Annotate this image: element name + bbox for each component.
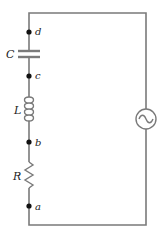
node-d-label: d [35,26,41,37]
wire-top [29,13,146,109]
resistor-label: R [12,170,21,183]
capacitor-label: C [6,48,15,61]
node-b-label: b [35,137,41,148]
wire-right-bottom [29,129,146,225]
inductor: L [13,97,34,162]
inductor-label: L [13,104,21,117]
node-c-label: c [35,70,41,81]
node-a-label: a [35,201,41,212]
ac-source-icon [136,109,156,129]
circuit-diagram: C L R d c b a [0,0,167,230]
resistor: R [12,162,33,188]
